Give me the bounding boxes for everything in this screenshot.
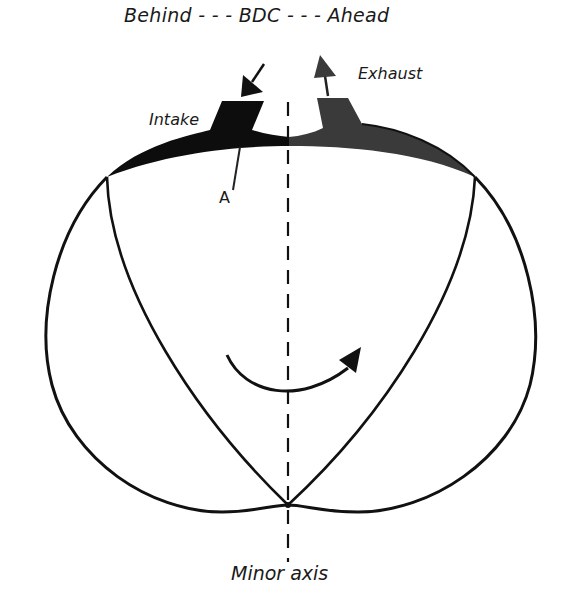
- diagram-canvas: [0, 0, 567, 593]
- exhaust-arrow-shaft: [325, 76, 328, 96]
- point-a-label: A: [219, 190, 230, 206]
- exhaust-port: [289, 98, 475, 177]
- intake-arrow-shaft: [252, 64, 264, 82]
- exhaust-label: Exhaust: [358, 66, 422, 82]
- bdc-reference-label: Behind - - - BDC - - - Ahead: [124, 6, 389, 25]
- intake-arrow-head: [241, 75, 263, 97]
- point-a-pointer: [233, 147, 240, 190]
- housing-outline-left: [46, 177, 288, 512]
- cusp-point: [285, 502, 291, 508]
- rotor-flank-left: [107, 177, 288, 505]
- intake-label: Intake: [149, 112, 199, 128]
- housing-outline-right: [288, 177, 536, 512]
- minor-axis-label: Minor axis: [231, 564, 328, 583]
- rotor-flank-right: [288, 177, 475, 505]
- exhaust-arrow-head: [314, 55, 336, 78]
- rotation-arrow-head: [339, 347, 361, 373]
